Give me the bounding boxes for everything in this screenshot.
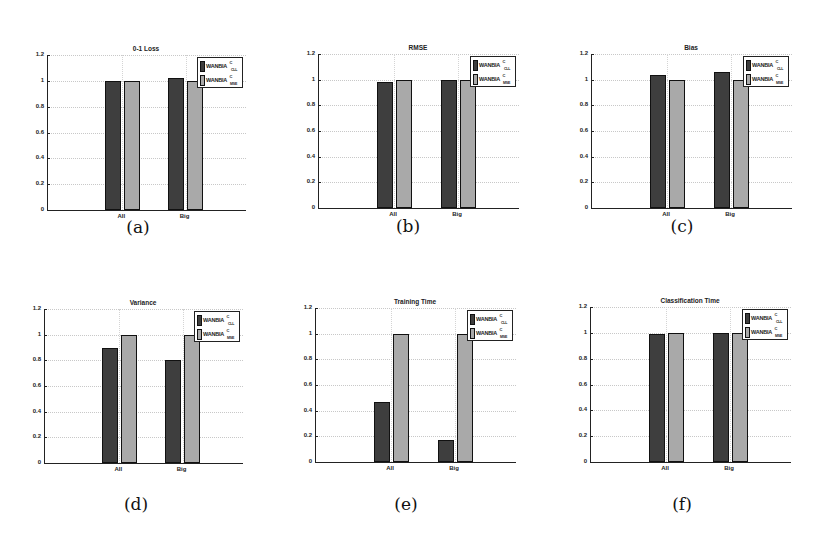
y-tick-label: 0.8 bbox=[572, 101, 588, 107]
x-tick-label: All bbox=[108, 466, 128, 472]
legend-label: WANBIACCLL bbox=[479, 62, 500, 68]
legend-swatch bbox=[197, 329, 202, 340]
legend-superscript: C bbox=[774, 312, 777, 317]
y-tick-label: 0 bbox=[28, 206, 44, 212]
legend-superscript: C bbox=[774, 326, 777, 331]
y-tick-label: 0.2 bbox=[296, 432, 312, 438]
legend-label: WANBIACMSE bbox=[206, 77, 227, 83]
y-tick-mark bbox=[47, 133, 50, 134]
legend-entry-cll: WANBIACCLL bbox=[470, 313, 497, 325]
y-tick-label: 0.2 bbox=[25, 433, 41, 439]
gridline bbox=[45, 360, 243, 361]
legend-name: WANBIA bbox=[206, 63, 227, 69]
legend: WANBIACCLLWANBIACMSE bbox=[743, 56, 789, 87]
legend-entry-cll: WANBIACCLL bbox=[200, 60, 227, 72]
y-tick-label: 0.4 bbox=[28, 154, 44, 160]
legend-entry-cll: WANBIACCLL bbox=[745, 312, 772, 324]
y-tick-mark bbox=[44, 386, 47, 387]
x-tick-label: Big bbox=[175, 213, 195, 219]
bar-all-mse bbox=[124, 81, 140, 210]
legend-swatch bbox=[470, 314, 475, 325]
y-tick-label: 1.2 bbox=[28, 51, 44, 57]
legend-swatch bbox=[473, 60, 478, 71]
y-tick-label: 1 bbox=[25, 331, 41, 337]
legend-label: WANBIACMSE bbox=[751, 329, 772, 335]
bar-all-mse bbox=[396, 80, 412, 208]
y-tick-label: 0.4 bbox=[296, 407, 312, 413]
y-tick-label: 1.2 bbox=[25, 305, 41, 311]
legend-subscript: MSE bbox=[775, 334, 782, 338]
gridline bbox=[319, 182, 519, 183]
legend-superscript: C bbox=[226, 328, 229, 333]
y-tick-mark bbox=[591, 182, 594, 183]
legend-name: WANBIA bbox=[751, 315, 772, 321]
legend-swatch bbox=[200, 75, 205, 86]
bar-all-mse bbox=[121, 335, 137, 463]
y-tick-mark bbox=[591, 208, 594, 209]
y-tick-label: 0.4 bbox=[572, 153, 588, 159]
y-tick-mark bbox=[44, 360, 47, 361]
legend-label: WANBIACCLL bbox=[206, 63, 227, 69]
legend-swatch bbox=[200, 61, 205, 72]
subfigure-caption: (d) bbox=[116, 494, 156, 514]
y-tick-mark bbox=[590, 385, 593, 386]
y-tick-mark bbox=[44, 335, 47, 336]
y-tick-label: 0.6 bbox=[572, 127, 588, 133]
legend-swatch bbox=[197, 315, 202, 326]
y-tick-label: 0.6 bbox=[25, 382, 41, 388]
legend-subscript: CLL bbox=[231, 68, 237, 72]
gridline bbox=[591, 436, 791, 437]
legend-subscript: CLL bbox=[776, 320, 782, 324]
y-tick-label: 0 bbox=[571, 458, 587, 464]
gridline bbox=[48, 107, 246, 108]
y-tick-mark bbox=[44, 412, 47, 413]
y-tick-label: 0.6 bbox=[296, 381, 312, 387]
gridline bbox=[592, 54, 792, 55]
gridline bbox=[316, 385, 516, 386]
legend-superscript: C bbox=[499, 327, 502, 332]
y-tick-mark bbox=[318, 131, 321, 132]
legend-entry-mse: WANBIACMSE bbox=[745, 326, 772, 338]
chart-title: RMSE bbox=[318, 44, 518, 51]
y-tick-label: 0.6 bbox=[299, 127, 315, 133]
y-tick-mark bbox=[591, 105, 594, 106]
x-tick-label: Big bbox=[719, 465, 739, 471]
y-tick-mark bbox=[590, 359, 593, 360]
bar-big-mse bbox=[187, 81, 203, 210]
legend-swatch bbox=[746, 74, 751, 85]
y-tick-mark bbox=[315, 436, 318, 437]
y-tick-mark bbox=[318, 54, 321, 55]
legend: WANBIACCLLWANBIACMSE bbox=[470, 56, 516, 87]
legend-subscript: MSE bbox=[230, 82, 237, 86]
legend-superscript: C bbox=[775, 73, 778, 78]
y-tick-mark bbox=[318, 80, 321, 81]
legend-entry-mse: WANBIACMSE bbox=[197, 328, 224, 340]
x-tick-label: Big bbox=[720, 211, 740, 217]
bar-all-mse bbox=[669, 80, 685, 208]
bar-all-cll bbox=[649, 334, 665, 462]
y-tick-mark bbox=[590, 333, 593, 334]
legend-name: WANBIA bbox=[476, 330, 497, 336]
bar-big-cll bbox=[165, 360, 181, 463]
y-tick-mark bbox=[590, 462, 593, 463]
legend-superscript: C bbox=[229, 60, 232, 65]
legend: WANBIACCLLWANBIACMSE bbox=[742, 309, 788, 340]
legend-entry-mse: WANBIACMSE bbox=[200, 74, 227, 86]
y-tick-label: 0.8 bbox=[296, 355, 312, 361]
y-tick-mark bbox=[47, 107, 50, 108]
gridline bbox=[48, 158, 246, 159]
subfigure-caption: (f) bbox=[662, 494, 702, 514]
y-tick-mark bbox=[315, 308, 318, 309]
legend-label: WANBIACCLL bbox=[752, 62, 773, 68]
y-tick-label: 1 bbox=[299, 76, 315, 82]
bar-all-cll bbox=[374, 402, 390, 462]
bar-big-cll bbox=[441, 80, 457, 208]
legend-subscript: MSE bbox=[776, 81, 783, 85]
y-tick-mark bbox=[44, 437, 47, 438]
legend-entry-cll: WANBIACCLL bbox=[197, 314, 224, 326]
bar-big-mse bbox=[460, 80, 476, 208]
legend-name: WANBIA bbox=[751, 329, 772, 335]
legend-entry-cll: WANBIACCLL bbox=[746, 59, 773, 71]
y-tick-label: 1 bbox=[28, 77, 44, 83]
legend-superscript: C bbox=[775, 59, 778, 64]
